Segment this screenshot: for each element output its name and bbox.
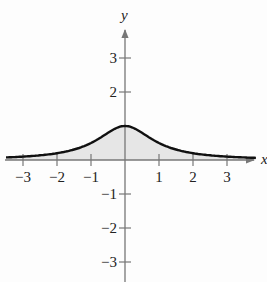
y-tick-label: 3 [110, 50, 118, 66]
x-tick-label: −3 [15, 169, 31, 185]
y-tick-label: 2 [110, 84, 118, 100]
y-tick-label: −1 [101, 186, 117, 202]
x-tick-label: −1 [83, 169, 99, 185]
y-tick-label: −3 [101, 254, 117, 270]
y-axis-label: y [119, 7, 128, 23]
x-tick-label: 2 [189, 169, 197, 185]
chart: −3−2−112332−1−2−3 y x [0, 0, 267, 282]
x-tick-label: 1 [155, 169, 163, 185]
x-tick-label: 3 [223, 169, 231, 185]
x-axis-label: x [260, 151, 267, 167]
x-tick-label: −2 [49, 169, 65, 185]
y-tick-label: −2 [101, 220, 117, 236]
